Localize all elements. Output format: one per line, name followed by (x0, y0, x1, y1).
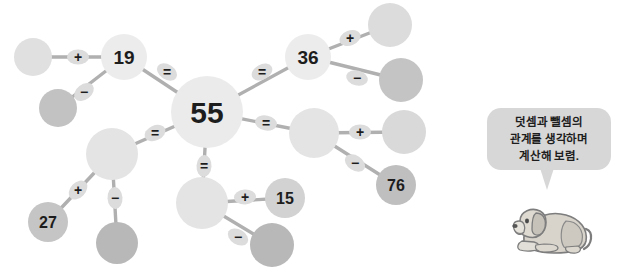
node-circle[interactable] (289, 108, 339, 158)
operator-equals-icon: = (254, 112, 279, 133)
node-blank-n_lower_left_blank[interactable] (39, 89, 77, 127)
operator-minus-icon: − (224, 223, 252, 250)
node-circle[interactable] (14, 38, 52, 76)
operator-glyph: = (151, 125, 159, 141)
speech-bubble-line-2: 관계를 생각하며 (491, 131, 607, 148)
operator-plus-icon: + (234, 188, 257, 206)
operator-glyph: + (241, 189, 249, 205)
node-value-label: 19 (113, 47, 134, 68)
operator-equals-icon: = (196, 155, 212, 178)
operator-glyph: + (74, 49, 82, 65)
node-blank-n_mr_blank[interactable] (289, 108, 339, 158)
node-circle[interactable] (250, 223, 294, 267)
node-blank-n_bc_down_blank[interactable] (250, 223, 294, 267)
node-value-label: 76 (387, 177, 405, 194)
operator-glyph: + (346, 30, 354, 46)
node-value-label: 15 (276, 190, 294, 207)
node-circle[interactable] (368, 3, 412, 47)
operator-glyph: + (74, 182, 82, 198)
speech-bubble: 덧셈과 뺄셈의 관계를 생각하며 계산해 보렴. (487, 108, 611, 170)
operator-plus-icon: + (349, 123, 371, 139)
operator-glyph: − (234, 229, 242, 245)
node-circle[interactable] (176, 177, 228, 229)
operator-plus-icon: + (67, 49, 89, 65)
operator-minus-icon: − (107, 187, 123, 210)
operator-glyph: = (262, 115, 270, 131)
node-circle[interactable] (39, 89, 77, 127)
node-blank-n_tr_blank[interactable] (368, 3, 412, 47)
operator-glyph: = (163, 64, 171, 80)
node-value-label: 55 (190, 96, 223, 129)
operator-glyph: = (258, 64, 266, 80)
operator-glyph: − (353, 70, 361, 86)
number-relation-diagram: 195536762715 +−==+−=+−=+−=+− (0, 0, 460, 267)
worksheet-canvas: 195536762715 +−==+−=+−=+−=+− 덧셈과 뺄셈의 관계를… (0, 0, 627, 267)
node-circle[interactable] (86, 128, 138, 180)
operator-glyph: = (200, 158, 208, 174)
node-circle[interactable] (379, 58, 423, 102)
node-blank-n_bc_blank[interactable] (176, 177, 228, 229)
operator-glyph: + (356, 124, 364, 140)
node-value-label: 36 (297, 47, 318, 68)
speech-bubble-tail (540, 168, 554, 190)
speech-bubble-line-3: 계산해 보렴. (491, 148, 607, 165)
node-number-15: 15 (265, 178, 305, 218)
operator-glyph: − (80, 84, 88, 100)
node-number-19: 19 (101, 34, 147, 80)
speech-bubble-line-1: 덧셈과 뺄셈의 (491, 114, 607, 131)
dog-illustration (508, 199, 594, 261)
node-number-76: 76 (376, 165, 416, 205)
node-blank-n_bl_down_blank[interactable] (96, 222, 138, 264)
node-blank-n_r_blank_dark[interactable] (379, 58, 423, 102)
node-value-label: 27 (39, 214, 57, 231)
node-circle[interactable] (382, 110, 426, 154)
node-blank-n_left_blank[interactable] (14, 38, 52, 76)
node-number-55: 55 (171, 76, 243, 148)
node-number-36: 36 (285, 34, 331, 80)
operator-glyph: − (351, 155, 359, 171)
operator-equals-icon: = (153, 58, 181, 85)
node-number-27: 27 (28, 202, 68, 242)
node-blank-n_mr_right_blank[interactable] (382, 110, 426, 154)
node-blank-n_bl_blank[interactable] (86, 128, 138, 180)
operator-glyph: − (111, 190, 119, 206)
node-circle[interactable] (96, 222, 138, 264)
operator-plus-icon: + (336, 25, 363, 50)
operator-equals-icon: = (141, 120, 168, 145)
